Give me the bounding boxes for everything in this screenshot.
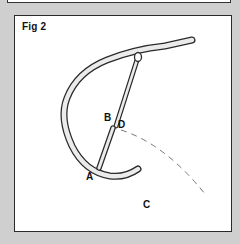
label-a: A <box>86 171 93 182</box>
suture-thread <box>64 40 192 176</box>
dashed-arc <box>121 130 205 194</box>
label-d: D <box>118 119 125 130</box>
figure-panel: Fig 2 B D A C <box>14 15 232 232</box>
top-panel <box>7 0 231 3</box>
needle-eye <box>135 53 142 62</box>
label-c: C <box>143 199 150 210</box>
label-b: B <box>104 112 111 123</box>
